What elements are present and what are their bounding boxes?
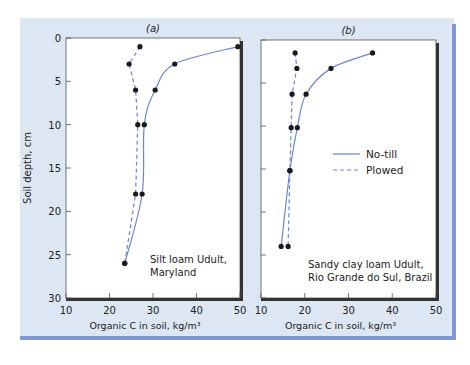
data-point-marker xyxy=(122,261,127,266)
soil-type-annotation: Sandy clay loam Udult, xyxy=(308,259,424,270)
x-axis-label: Organic C in soil, kg/m³ xyxy=(285,320,396,331)
legend-no-till-label: No-till xyxy=(366,148,397,160)
data-point-marker xyxy=(135,122,140,127)
y-tick-label: 20 xyxy=(48,206,61,217)
soil-carbon-figure: (a)0510152025301020304050Organic C in so… xyxy=(0,0,470,365)
data-point-marker xyxy=(303,92,308,97)
data-point-marker xyxy=(370,50,375,55)
x-tick-label: 10 xyxy=(60,305,73,316)
x-axis-label: Organic C in soil, kg/m³ xyxy=(89,320,200,331)
panel-title: (a) xyxy=(146,23,160,34)
data-point-marker xyxy=(295,125,300,130)
panel-a: (a)0510152025301020304050Organic C in so… xyxy=(48,23,246,331)
legend-plowed-label: Plowed xyxy=(366,164,403,176)
data-point-marker xyxy=(294,66,299,71)
data-point-marker xyxy=(172,61,177,66)
y-tick-label: 15 xyxy=(48,163,61,174)
x-tick-label: 50 xyxy=(234,305,247,316)
x-tick-label: 40 xyxy=(386,305,399,316)
x-tick-label: 50 xyxy=(430,305,443,316)
y-tick-label: 25 xyxy=(48,250,61,261)
soil-type-annotation: Rio Grande do Sul, Brazil xyxy=(308,272,432,283)
panel-title: (b) xyxy=(341,25,355,36)
soil-type-annotation: Maryland xyxy=(150,267,196,278)
y-tick-label: 5 xyxy=(55,76,61,87)
right-accent-bar xyxy=(452,24,456,340)
data-point-marker xyxy=(287,168,292,173)
data-point-marker xyxy=(328,66,333,71)
data-point-marker xyxy=(126,61,131,66)
data-point-marker xyxy=(133,191,138,196)
data-point-marker xyxy=(286,244,291,249)
y-tick-label: 30 xyxy=(48,293,61,304)
data-point-marker xyxy=(279,244,284,249)
data-point-marker xyxy=(289,125,294,130)
bottom-accent-bar xyxy=(20,336,456,340)
data-point-marker xyxy=(293,50,298,55)
panel-b: (b)1020304050Organic C in soil, kg/m³San… xyxy=(255,25,443,331)
x-tick-label: 30 xyxy=(342,305,355,316)
data-point-marker xyxy=(235,44,240,49)
y-tick-label: 0 xyxy=(55,33,61,44)
x-tick-label: 20 xyxy=(298,305,311,316)
x-tick-label: 10 xyxy=(255,305,268,316)
data-point-marker xyxy=(137,44,142,49)
data-point-marker xyxy=(142,122,147,127)
data-point-marker xyxy=(133,87,138,92)
data-point-marker xyxy=(153,87,158,92)
y-tick-label: 10 xyxy=(48,120,61,131)
x-tick-label: 40 xyxy=(190,305,203,316)
soil-type-annotation: Silt loam Udult, xyxy=(150,254,227,265)
data-point-marker xyxy=(289,92,294,97)
x-tick-label: 20 xyxy=(103,305,116,316)
x-tick-label: 30 xyxy=(147,305,160,316)
y-axis-label: Soil depth, cm xyxy=(22,132,33,204)
data-point-marker xyxy=(140,191,145,196)
